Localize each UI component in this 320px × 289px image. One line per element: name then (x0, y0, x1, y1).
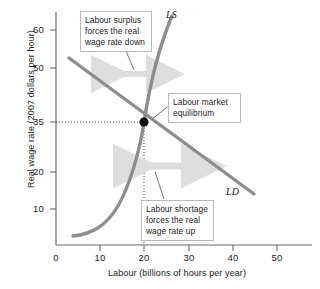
y-tick-label-10: 10 (22, 203, 44, 214)
x-tick-label-30: 30 (178, 252, 200, 263)
y-axis-ticks (50, 30, 56, 209)
x-tick-label-40: 40 (222, 252, 244, 263)
callout-labour-shortage: Labour shortage forces the real wage rat… (141, 200, 214, 241)
shortage-leader-line (155, 172, 164, 199)
surplus-leader-line (126, 51, 134, 70)
x-tick-label-20: 20 (133, 252, 155, 263)
x-tick-label-50: 50 (266, 252, 288, 263)
labour-market-chart: 60 50 35 20 10 0 10 20 30 40 50 Real wag… (0, 0, 320, 289)
x-tick-label-0: 0 (45, 252, 67, 263)
x-axis-title: Labour (billions of hours per year) (108, 268, 246, 278)
curve-label-ls: LS (166, 9, 177, 20)
equilibrium-point-marker (139, 117, 148, 126)
callout-labour-market-equilibrium: Labour market equilibrium (168, 93, 241, 123)
labour-demand-curve (69, 58, 254, 194)
callout-labour-surplus: Labour surplus forces the real wage rate… (80, 11, 152, 52)
chart-plot-area (0, 0, 320, 289)
x-tick-label-10: 10 (89, 252, 111, 263)
x-axis-ticks (100, 245, 277, 251)
y-axis-title: Real wage rate (2007 dollars per hour) (26, 14, 36, 204)
curve-label-ld: LD (226, 186, 239, 197)
